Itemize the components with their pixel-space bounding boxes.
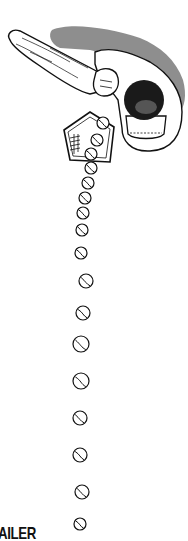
baseball xyxy=(75,485,89,499)
baseball xyxy=(73,336,89,352)
baseball xyxy=(77,207,89,219)
baseball xyxy=(97,117,109,129)
batter-illustration xyxy=(0,0,188,541)
baseball xyxy=(85,148,97,160)
baseball xyxy=(76,306,90,320)
baseball xyxy=(91,134,103,146)
baseball xyxy=(73,373,89,389)
caption-text: AILER xyxy=(0,525,36,541)
baseball-trail xyxy=(73,117,109,530)
helmet xyxy=(124,80,164,120)
baseball xyxy=(85,162,97,174)
baseball xyxy=(74,518,86,530)
baseball xyxy=(79,192,91,204)
baseball xyxy=(75,247,87,259)
baseball xyxy=(73,411,87,425)
baseball xyxy=(82,177,94,189)
baseball xyxy=(76,224,88,236)
baseball xyxy=(79,274,93,288)
batter-hands xyxy=(93,69,118,96)
baseball xyxy=(73,448,87,462)
helmet-highlight xyxy=(135,100,157,114)
